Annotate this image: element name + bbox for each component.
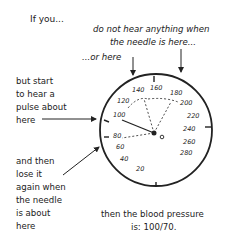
svg-text:200: 200 — [180, 99, 192, 107]
svg-text:240: 240 — [183, 125, 195, 133]
svg-text:260: 260 — [183, 138, 195, 146]
svg-text:280: 280 — [180, 149, 192, 157]
svg-text:100: 100 — [113, 111, 125, 119]
needle-tail — [160, 135, 164, 139]
svg-text:140: 140 — [132, 86, 144, 94]
svg-text:80: 80 — [113, 132, 121, 140]
svg-text:180: 180 — [170, 89, 182, 97]
pointer-arrows — [42, 49, 181, 175]
svg-text:40: 40 — [120, 155, 128, 163]
svg-text:160: 160 — [150, 84, 162, 92]
svg-text:220: 220 — [187, 112, 199, 120]
gauge-diagram: 140 160 180 120 200 100 220 80 240 60 26… — [0, 0, 229, 250]
gauge-needle — [122, 120, 154, 133]
svg-text:60: 60 — [116, 143, 124, 151]
needle-pivot — [152, 131, 157, 136]
svg-text:120: 120 — [117, 97, 129, 105]
svg-text:20: 20 — [136, 165, 144, 173]
